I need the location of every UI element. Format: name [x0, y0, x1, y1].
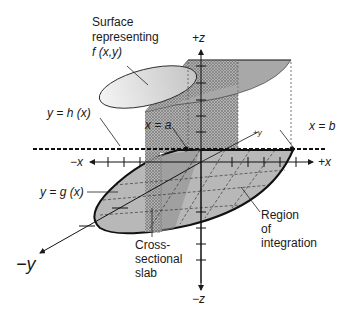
- pos-y-label: +y: [253, 128, 263, 137]
- diagram-canvas: Surface representing f (x,y) +z −z +x −x…: [0, 0, 352, 311]
- slab-label-line1: Cross-: [135, 238, 170, 252]
- point-x-b: [290, 147, 295, 152]
- pos-x-label: +x: [318, 155, 332, 169]
- surface-label-line1: Surface: [92, 15, 134, 29]
- x-equals-b-label: x = b: [308, 119, 336, 133]
- slab-on-region: [145, 155, 162, 232]
- region-label-line1: Region: [261, 208, 299, 222]
- region-label-line2: of: [261, 222, 272, 236]
- neg-y-label: −y: [16, 254, 37, 274]
- region-label-line3: integration: [261, 236, 317, 250]
- surface-label-line3: f (x,y): [92, 45, 122, 59]
- slab-label-line3: slab: [135, 266, 157, 280]
- slab-label-line2: sectional: [135, 252, 182, 266]
- neg-z-label: −z: [192, 292, 205, 306]
- x-equals-a-label: x = a: [144, 118, 172, 132]
- surface-label-line2: representing: [92, 30, 159, 44]
- g-of-x-label: y = g (x): [39, 185, 84, 199]
- pos-z-label: +z: [192, 31, 205, 45]
- h-of-x-label: y = h (x): [46, 106, 91, 120]
- neg-x-label: −x: [70, 155, 84, 169]
- point-x-a: [184, 147, 189, 152]
